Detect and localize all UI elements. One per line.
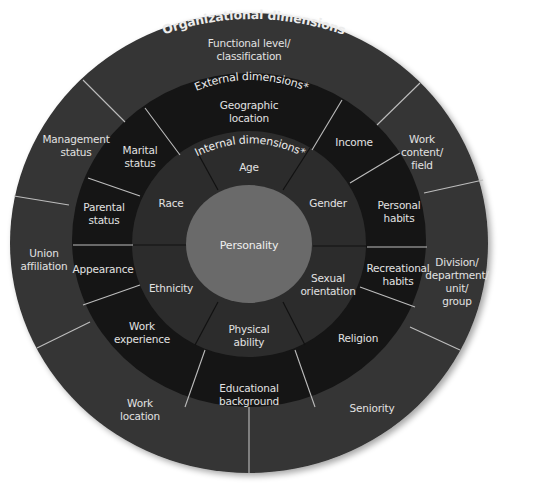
segment-label-line: Management (42, 133, 109, 146)
segment-label-line: habits (377, 212, 420, 225)
external-segment-work-experience: Workexperience (114, 320, 170, 346)
segment-label-line: Appearance (72, 263, 133, 276)
segment-label-line: classification (208, 50, 290, 63)
segment-label-line: group (425, 295, 488, 308)
internal-segment-sexual-orientation: Sexualorientation (300, 272, 355, 298)
segment-label-line: Functional level/ (208, 37, 290, 50)
segment-label-line: Income (335, 136, 372, 149)
organizational-segment-division-department-unit-group: Division/department/unit/group (425, 256, 488, 308)
segment-label-line: Work (114, 320, 170, 333)
segment-label-line: ability (228, 336, 269, 349)
external-segment-parental-status: Parentalstatus (83, 201, 124, 227)
external-segment-income: Income (335, 136, 372, 149)
segment-label-line: experience (114, 333, 170, 346)
segment-label-line: background (219, 395, 279, 408)
external-segment-geographic-location: Geographiclocation (220, 99, 278, 125)
segment-label-line: Division/ (425, 256, 488, 269)
segment-label-line: Personality (220, 239, 278, 252)
segment-label-line: Work (120, 397, 160, 410)
segment-label-line: habits (366, 275, 429, 288)
core-segment-personality: Personality (220, 239, 278, 252)
organizational-segment-work-location: Worklocation (120, 397, 160, 423)
segment-label-line: orientation (300, 285, 355, 298)
segment-label-line: Personal (377, 199, 420, 212)
segment-label-line: location (220, 112, 278, 125)
segment-label-line: status (123, 157, 158, 170)
external-segment-religion: Religion (338, 332, 378, 345)
segment-label-line: Ethnicity (149, 282, 193, 295)
segment-label-line: status (42, 146, 109, 159)
external-segment-recreational-habits: Recreationalhabits (366, 262, 429, 288)
segment-label-line: affiliation (21, 260, 68, 273)
organizational-segment-functional-level-classification: Functional level/classification (208, 37, 290, 63)
organizational-segment-seniority: Seniority (350, 402, 395, 415)
organizational-segment-work-content-field: Workcontent/field (401, 133, 443, 172)
external-segment-appearance: Appearance (72, 263, 133, 276)
internal-segment-age: Age (239, 161, 259, 174)
organizational-segment-union-affiliation: Unionaffiliation (21, 247, 68, 273)
segment-label-line: Race (159, 197, 184, 210)
internal-segment-gender: Gender (309, 197, 347, 210)
internal-segment-race: Race (159, 197, 184, 210)
segment-label-line: Parental (83, 201, 124, 214)
segment-label-line: Recreational (366, 262, 429, 275)
organizational-segment-management-status: Managementstatus (42, 133, 109, 159)
internal-segment-physical-ability: Physicalability (228, 323, 269, 349)
segment-label-line: Seniority (350, 402, 395, 415)
segment-label-line: Age (239, 161, 259, 174)
segment-label-line: Marital (123, 144, 158, 157)
external-segment-educational-background: Educationalbackground (219, 382, 279, 408)
segment-label-line: Gender (309, 197, 347, 210)
segment-label-line: field (401, 159, 443, 172)
segment-label-line: Educational (219, 382, 279, 395)
segment-label-line: Religion (338, 332, 378, 345)
segment-label-line: department/ (425, 269, 488, 282)
internal-segment-ethnicity: Ethnicity (149, 282, 193, 295)
segment-label-line: Work (401, 133, 443, 146)
segment-label-line: Union (21, 247, 68, 260)
segment-label-line: content/ (401, 146, 443, 159)
segment-label-line: Sexual (300, 272, 355, 285)
segment-label-line: status (83, 214, 124, 227)
segment-label-line: unit/ (425, 282, 488, 295)
segment-label-line: location (120, 410, 160, 423)
external-segment-personal-habits: Personalhabits (377, 199, 420, 225)
external-segment-marital-status: Maritalstatus (123, 144, 158, 170)
segment-label-line: Geographic (220, 99, 278, 112)
segment-label-line: Physical (228, 323, 269, 336)
